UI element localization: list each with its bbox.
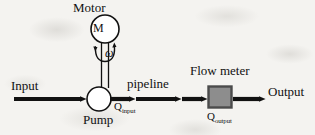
q-output-subscript: output	[215, 117, 232, 124]
q-input-label: Qinput	[114, 101, 135, 115]
motor-label: Motor	[73, 1, 106, 14]
pump-circle	[87, 87, 111, 111]
pump-label: Pump	[83, 113, 113, 126]
output-label: Output	[268, 85, 304, 98]
input-label: Input	[11, 79, 38, 92]
q-output-label: Qoutput	[207, 111, 232, 125]
pump-flow-diagram	[0, 0, 315, 135]
q-output-base: Q	[207, 110, 215, 122]
q-input-base: Q	[114, 100, 122, 112]
motor-symbol-label: M	[93, 22, 104, 34]
pipeline-label: pipeline	[127, 77, 169, 90]
omega-label: ω	[105, 47, 113, 59]
q-input-subscript: input	[122, 107, 136, 114]
flow-meter-box	[209, 87, 232, 108]
flow-meter-label: Flow meter	[190, 64, 250, 77]
diagram-canvas: Motor M ω Input Pump pipeline Flow meter…	[0, 0, 315, 135]
